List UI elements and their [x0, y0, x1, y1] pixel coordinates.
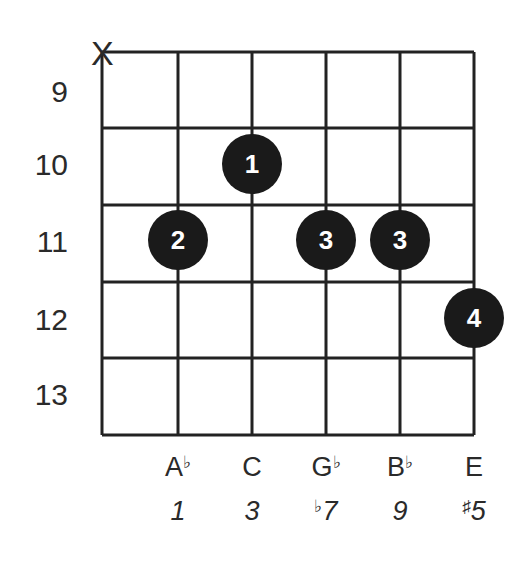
note-label: E [444, 448, 504, 482]
finger-dot-4: 4 [444, 288, 504, 348]
interval-label: ♭7 [296, 492, 356, 526]
interval-label: 3 [222, 492, 282, 526]
note-label: G♭ [296, 448, 356, 482]
fret-label-10: 10 [8, 150, 68, 180]
note-label: C [222, 448, 282, 482]
finger-dot-1: 1 [222, 134, 282, 194]
interval-label: ♯5 [444, 492, 504, 526]
muted-string-marker: X [91, 36, 114, 70]
fret-label-9: 9 [8, 77, 68, 107]
fret-label-12: 12 [8, 305, 68, 335]
note-label: A♭ [148, 448, 208, 482]
fret-label-13: 13 [8, 380, 68, 410]
interval-label: 9 [370, 492, 430, 526]
fret-label-11: 11 [8, 227, 68, 257]
note-label: B♭ [370, 448, 430, 482]
finger-dot-3b: 3 [370, 210, 430, 270]
finger-dot-2: 2 [148, 210, 208, 270]
finger-dot-3: 3 [296, 210, 356, 270]
interval-label: 1 [148, 492, 208, 526]
